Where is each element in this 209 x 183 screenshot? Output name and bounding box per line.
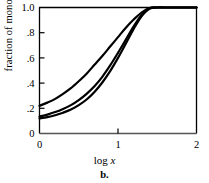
y-axis-label: fraction of monomer [2, 0, 16, 82]
x-tick-label: 2 [194, 139, 199, 150]
data-curves [40, 7, 197, 118]
y-tick-label: .4 [27, 78, 36, 89]
panel-caption: b. [0, 169, 209, 180]
axes-frame [40, 8, 197, 134]
axis-ticks [40, 33, 119, 134]
y-tick-label: .2 [27, 103, 35, 114]
axis-tick-labels: 0.2.4.6.81.0012 [21, 2, 199, 149]
y-tick-label: .8 [27, 27, 35, 38]
y-tick-label: 0 [29, 128, 34, 139]
x-axis-label-variable: x [110, 154, 115, 166]
y-tick-label: .6 [27, 53, 35, 64]
x-tick-label: 1 [115, 139, 120, 150]
x-tick-label: 0 [37, 139, 42, 150]
curve-curve-2-middle [40, 7, 197, 116]
plot-frame [40, 8, 197, 134]
figure-panel-b: 0.2.4.6.81.0012 fraction of monomer log … [0, 0, 209, 183]
x-axis-label: log x [0, 154, 209, 166]
y-tick-label: 1.0 [21, 2, 34, 13]
curve-curve-3-lower [40, 7, 197, 118]
x-axis-label-prefix: log [94, 154, 111, 166]
